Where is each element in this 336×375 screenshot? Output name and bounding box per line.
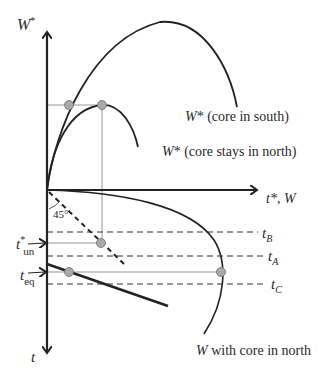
point-peak-north xyxy=(98,101,107,110)
label-t-b: tB xyxy=(262,225,272,244)
points xyxy=(65,101,226,277)
label-t-un: t*un xyxy=(16,234,35,257)
pointer-t-eq xyxy=(28,272,45,273)
label-t-eq: teq xyxy=(20,267,35,287)
axis-label-t: t xyxy=(31,349,36,365)
label-core-in-south: W* (core in south) xyxy=(185,109,289,125)
guide-lines xyxy=(47,105,221,272)
label-core-stays-north: W* (core stays in north) xyxy=(162,144,297,160)
angle-label-45: 45° xyxy=(53,208,68,220)
point-on-w-curve xyxy=(217,268,226,277)
axis-label-tstar-w: t*, W xyxy=(266,191,297,206)
pointer-t-un xyxy=(28,243,45,244)
label-t-c: tC xyxy=(271,276,282,295)
diagram-canvas: W* W* (core in south) W* (core stays in … xyxy=(0,0,336,375)
curve-wstar-core-stays-north xyxy=(47,105,138,190)
label-w-core-in-north: W with core in north xyxy=(196,343,311,358)
point-on-thick-line xyxy=(65,268,74,277)
point-intersection-wstar xyxy=(65,101,74,110)
label-t-a: tA xyxy=(268,248,279,267)
curve-wstar-core-in-south xyxy=(47,22,237,190)
curve-w-core-in-north xyxy=(47,190,223,334)
axis-label-wstar: W* xyxy=(17,15,35,33)
line-45-degree xyxy=(49,192,124,264)
point-on-45-line xyxy=(97,239,106,248)
